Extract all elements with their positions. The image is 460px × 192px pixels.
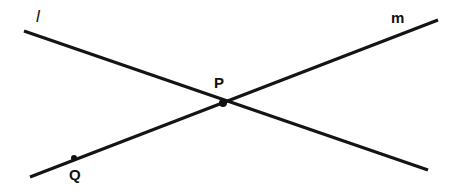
geometry-figure: l m P Q xyxy=(0,0,460,192)
line-label-l: l xyxy=(36,8,40,25)
point-q-dot xyxy=(71,155,77,161)
figure-canvas xyxy=(0,0,460,192)
line-label-m: m xyxy=(391,10,404,25)
point-label-p: P xyxy=(214,75,224,90)
point-p-dot xyxy=(219,99,227,107)
point-label-q: Q xyxy=(69,167,81,182)
